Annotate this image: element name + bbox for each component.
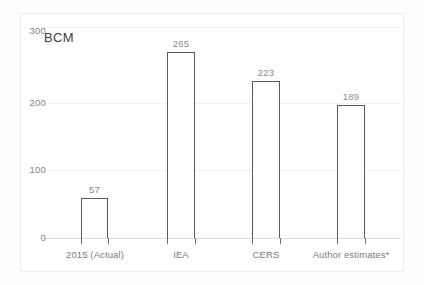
bar-chart: 300 200 100 0 BCM 57 2015 (Actual) 265 I…: [0, 0, 424, 285]
x-axis-label-cers: CERS: [226, 249, 306, 260]
x-axis-label-author-estimates: Author estimates*: [301, 249, 401, 260]
x-tick-mark: [108, 238, 109, 244]
x-tick-mark: [167, 238, 168, 244]
bars-group: 57 2015 (Actual) 265 IEA 223 CERS 189 Au…: [0, 0, 424, 285]
x-axis-label-iea: IEA: [141, 249, 221, 260]
x-tick-mark: [81, 238, 82, 244]
bar-2015-actual[interactable]: [81, 198, 108, 238]
bar-value-label-2015-actual: 57: [69, 184, 120, 195]
bar-value-label-author-estimates: 189: [325, 91, 377, 102]
bar-value-label-cers: 223: [240, 67, 292, 78]
x-tick-mark: [280, 238, 281, 244]
bar-iea[interactable]: [167, 52, 195, 238]
bar-value-label-iea: 265: [155, 38, 207, 49]
x-tick-mark: [252, 238, 253, 244]
x-tick-mark: [365, 238, 366, 244]
x-tick-mark: [337, 238, 338, 244]
x-tick-mark: [195, 238, 196, 244]
bar-cers[interactable]: [252, 81, 280, 238]
bar-author-estimates[interactable]: [337, 105, 365, 238]
x-axis-label-2015-actual: 2015 (Actual): [45, 249, 145, 260]
